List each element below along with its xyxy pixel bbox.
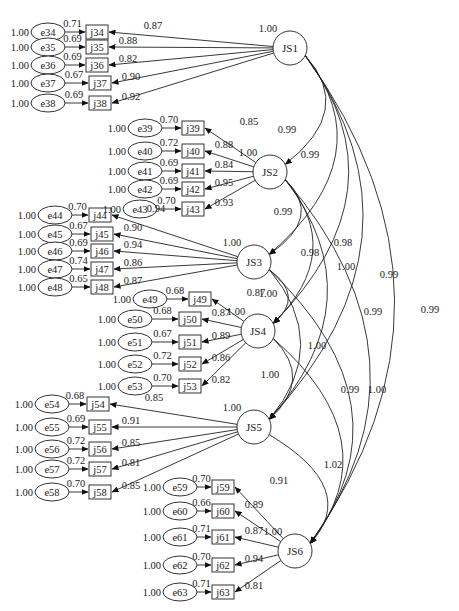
error-term-label: e43 bbox=[132, 204, 147, 215]
latent-variance: 1.00 bbox=[259, 23, 277, 34]
indicator-label: j42 bbox=[185, 184, 199, 195]
covariance-value: 0.99 bbox=[301, 149, 319, 160]
error-path-value: 0.71 bbox=[192, 523, 210, 534]
error-term-label: e35 bbox=[40, 42, 55, 53]
error-path-value: 0.69 bbox=[69, 237, 87, 248]
error-variance: 1.00 bbox=[18, 282, 36, 293]
error-term-label: e38 bbox=[40, 98, 55, 109]
error-path-value: 0.72 bbox=[67, 455, 85, 466]
indicator-label: j51 bbox=[182, 337, 196, 348]
error-variance: 1.00 bbox=[15, 422, 33, 433]
loading-value: 0.82 bbox=[119, 53, 137, 64]
error-term-label: e36 bbox=[40, 60, 55, 71]
covariance-arc-js4-js6 bbox=[273, 339, 343, 544]
loading-path bbox=[109, 47, 273, 48]
covariance-arc-js1-js4 bbox=[273, 56, 348, 324]
error-path-value: 0.71 bbox=[192, 578, 210, 589]
indicator-label: j54 bbox=[90, 399, 105, 410]
loading-value: 0.87 bbox=[247, 287, 265, 298]
error-path-value: 0.65 bbox=[69, 273, 87, 284]
indicator-label: j34 bbox=[89, 27, 104, 38]
error-path-value: 0.69 bbox=[160, 157, 178, 168]
error-path-value: 0.70 bbox=[68, 201, 86, 212]
error-path-value: 0.69 bbox=[160, 175, 178, 186]
covariance-value: 1.02 bbox=[324, 459, 342, 470]
error-variance: 1.00 bbox=[15, 444, 33, 455]
indicator-label: j52 bbox=[182, 359, 196, 370]
error-variance: 1.00 bbox=[108, 166, 126, 177]
loading-value: 0.91 bbox=[122, 415, 140, 426]
error-path-value: 0.70 bbox=[160, 114, 178, 125]
loading-value: 0.88 bbox=[119, 35, 137, 46]
error-term-label: e61 bbox=[172, 532, 187, 543]
loading-value: 0.86 bbox=[212, 352, 230, 363]
loading-value: 0.86 bbox=[124, 257, 142, 268]
error-variance: 1.00 bbox=[143, 532, 161, 543]
covariance-value: 0.99 bbox=[421, 304, 439, 315]
error-path-value: 0.69 bbox=[63, 33, 81, 44]
error-term-label: e50 bbox=[127, 314, 142, 325]
error-term-label: e37 bbox=[40, 78, 55, 89]
error-term-label: e34 bbox=[40, 27, 56, 38]
indicator-label: j55 bbox=[92, 422, 106, 433]
loading-value: 0.84 bbox=[215, 159, 234, 170]
error-variance: 1.00 bbox=[18, 246, 36, 257]
error-path-value: 0.69 bbox=[63, 51, 81, 62]
loading-path bbox=[235, 537, 278, 547]
loading-value: 0.87 bbox=[124, 275, 142, 286]
error-variance: 1.00 bbox=[98, 381, 116, 392]
covariance-value: 1.00 bbox=[337, 261, 355, 272]
error-term-label: e53 bbox=[127, 381, 142, 392]
loading-value: 0.85 bbox=[145, 392, 163, 403]
latent-label: JS4 bbox=[250, 325, 266, 337]
error-variance: 1.00 bbox=[143, 560, 161, 571]
loading-value: 0.91 bbox=[270, 475, 288, 486]
error-path-value: 0.69 bbox=[65, 89, 83, 100]
indicator-label: j59 bbox=[215, 482, 229, 493]
error-term-label: e54 bbox=[44, 399, 60, 410]
covariance-arc-js2-js3 bbox=[269, 180, 301, 255]
error-variance: 1.00 bbox=[11, 42, 29, 53]
error-term-label: e51 bbox=[127, 337, 142, 348]
loading-path bbox=[202, 319, 241, 327]
error-path-value: 0.67 bbox=[69, 220, 87, 231]
error-variance: 1.00 bbox=[15, 399, 33, 410]
indicator-label: j50 bbox=[182, 314, 196, 325]
loading-value: 0.94 bbox=[147, 203, 166, 214]
indicator-label: j49 bbox=[192, 294, 206, 305]
loading-value: 0.94 bbox=[124, 239, 143, 250]
loading-value: 0.94 bbox=[245, 553, 264, 564]
indicator-label: j41 bbox=[185, 166, 199, 177]
error-term-label: e45 bbox=[47, 229, 62, 240]
error-term-label: e48 bbox=[47, 282, 62, 293]
loading-value: 0.90 bbox=[122, 71, 140, 82]
loading-path bbox=[205, 171, 253, 172]
indicator-label: j53 bbox=[182, 381, 196, 392]
error-path-value: 0.72 bbox=[160, 137, 178, 148]
covariance-value: 0.99 bbox=[341, 384, 359, 395]
error-term-label: e58 bbox=[44, 487, 59, 498]
error-term-label: e59 bbox=[172, 482, 187, 493]
error-term-label: e46 bbox=[47, 246, 62, 257]
covariance-value: 1.00 bbox=[261, 369, 279, 380]
loading-value: 0.85 bbox=[240, 116, 258, 127]
latent-label: JS2 bbox=[262, 166, 278, 178]
loading-value: 0.90 bbox=[124, 222, 142, 233]
covariance-value: 1.00 bbox=[308, 340, 326, 351]
loading-value: 0.87 bbox=[144, 20, 162, 31]
diagram-canvas: e34j34e35j35e36j36e37j37e38j38e39j39e40j… bbox=[0, 0, 459, 611]
error-variance: 1.00 bbox=[11, 98, 29, 109]
error-variance: 1.00 bbox=[98, 314, 116, 325]
indicator-label: j57 bbox=[92, 464, 106, 475]
covariance-value: 0.98 bbox=[334, 237, 352, 248]
error-path-value: 0.67 bbox=[153, 328, 171, 339]
error-path-value: 0.68 bbox=[153, 305, 171, 316]
indicator-label: j45 bbox=[94, 229, 108, 240]
error-term-label: e41 bbox=[137, 166, 152, 177]
error-path-value: 0.70 bbox=[153, 372, 171, 383]
latent-variance: 1.00 bbox=[239, 147, 257, 158]
error-variance: 1.00 bbox=[18, 264, 36, 275]
error-variance: 1.00 bbox=[18, 210, 36, 221]
error-variance: 1.00 bbox=[108, 123, 126, 134]
error-variance: 1.00 bbox=[143, 587, 161, 598]
